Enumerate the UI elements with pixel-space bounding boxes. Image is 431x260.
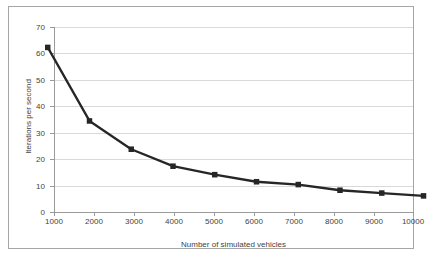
x-axis-line [54, 212, 413, 213]
y-tick-label-0: 0 [17, 208, 45, 217]
gridline-60 [54, 53, 413, 54]
y-tick-mark [50, 133, 54, 134]
x-tick-label-2000: 2000 [74, 217, 114, 226]
x-tick-mark [334, 212, 335, 216]
x-tick-mark [54, 212, 55, 216]
x-tick-label-10000: 10000 [393, 217, 431, 226]
x-tick-mark [214, 212, 215, 216]
x-tick-label-7000: 7000 [274, 217, 314, 226]
plot-area [54, 27, 413, 212]
data-point [45, 45, 50, 51]
x-tick-mark [134, 212, 135, 216]
gridline-10 [54, 186, 413, 187]
y-tick-mark [50, 53, 54, 54]
figure-border: 70 60 50 40 30 20 10 0 1000 2000 3000 40… [8, 6, 414, 249]
x-tick-label-4000: 4000 [154, 217, 194, 226]
x-tick-label-9000: 9000 [354, 217, 394, 226]
y-tick-label-10: 10 [17, 182, 45, 191]
x-tick-mark [413, 212, 414, 216]
x-tick-label-5000: 5000 [194, 217, 234, 226]
x-tick-label-6000: 6000 [234, 217, 274, 226]
y-tick-mark [50, 106, 54, 107]
x-tick-label-3000: 3000 [114, 217, 154, 226]
gridline-20 [54, 159, 413, 160]
x-tick-mark [374, 212, 375, 216]
gridline-40 [54, 106, 413, 107]
x-tick-mark [174, 212, 175, 216]
y-axis-line [54, 27, 55, 212]
x-tick-label-8000: 8000 [314, 217, 354, 226]
y-tick-label-70: 70 [17, 23, 45, 32]
x-tick-label-1000: 1000 [34, 217, 74, 226]
x-tick-mark [294, 212, 295, 216]
y-tick-mark [50, 186, 54, 187]
x-tick-mark [254, 212, 255, 216]
y-tick-mark [50, 27, 54, 28]
y-tick-mark [50, 80, 54, 81]
gridline-70 [54, 27, 413, 28]
gridline-30 [54, 133, 413, 134]
y-tick-mark [50, 159, 54, 160]
x-axis-title: Number of simulated vehicles [54, 240, 413, 249]
y-axis-title: Iterations per second [24, 57, 33, 177]
gridline-50 [54, 80, 413, 81]
x-tick-mark [94, 212, 95, 216]
data-point [421, 193, 426, 199]
